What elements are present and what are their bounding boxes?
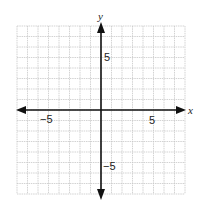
x-axis-right-arrow-icon [176, 106, 186, 114]
y-axis-down-arrow-icon [97, 189, 105, 200]
y-axis-label: y [97, 10, 103, 22]
y-tick-label-pos5: 5 [104, 51, 110, 63]
x-axis-label: x [187, 104, 193, 116]
coordinate-plane: y x −5 5 5 −5 [0, 0, 202, 212]
x-tick-label-neg5: −5 [40, 113, 53, 125]
x-tick-label-pos5: 5 [149, 114, 155, 126]
x-axis-left-arrow-icon [16, 106, 26, 114]
y-tick-label-neg5: −5 [103, 160, 116, 172]
y-axis-up-arrow-icon [97, 22, 105, 33]
